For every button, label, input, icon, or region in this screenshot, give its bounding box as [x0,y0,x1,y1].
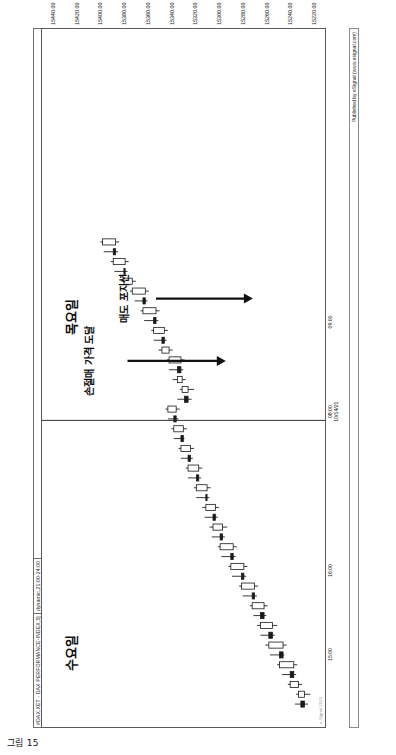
candlestick [239,583,258,589]
price-tick-label: 15360.00 [145,2,151,24]
candlestick [180,386,194,392]
candlestick [151,327,168,333]
candlestick [179,445,194,451]
candlestick [265,642,286,648]
time-tick-label: 08:0010/14/21 [327,401,340,421]
time-tick-label: 16:00 [327,564,333,577]
candlestick [221,553,235,559]
candlestick [270,651,284,657]
time-tick-label: 15:00 [327,648,333,661]
candlestick [209,524,227,530]
candlestick [154,337,167,343]
candlestick [100,238,119,244]
candlestick [104,248,118,254]
candlestick [181,455,193,461]
candlestick [202,504,219,510]
candlestick [212,533,225,539]
candlestick [171,425,186,431]
candlestick [261,632,275,638]
candlestick [196,494,209,500]
candlestick [296,691,310,697]
price-chart-plot[interactable]: 수요일목요일손절매 가격 도달매도 포지션 e-Signal 2021 [41,28,326,728]
rotated-chart-stage: #DAX.XET - DAX PERFORMANCE-INDEX,5] dyna… [33,28,363,728]
stop-loss-annotation-arrow-head [217,355,226,365]
day-label: 수요일 [64,635,79,671]
time-axis: 15:0016:0008:0010/14/2109:00 [327,28,347,728]
candlestick [114,268,127,274]
candlestick [111,258,129,264]
candlestick [257,622,277,628]
candlestick [173,376,186,382]
sell-position-annotation: 매도 포지션 [118,274,130,322]
candlestick [188,474,201,480]
candlestick-svg: 수요일목요일손절매 가격 도달매도 포지션 [42,28,326,727]
sell-position-annotation-arrow-head [244,293,253,303]
candlestick [174,435,185,441]
stop-loss-annotation: 손절매 가격 도달 [83,324,95,395]
candlestick [205,514,218,520]
candlestick [186,465,203,471]
price-tick-label: 15220.00 [311,2,317,24]
price-tick-label: 15260.00 [264,2,270,24]
candlestick [158,347,172,353]
candlestick [169,366,183,372]
candlestick [130,288,149,294]
candlestick [194,484,211,490]
candlestick [166,406,180,412]
price-tick-label: 15380.00 [121,2,127,24]
candlestick [253,612,266,618]
candlestick [218,543,237,549]
price-tick-label: 15340.00 [169,2,175,24]
time-tick-label: 09:00 [327,315,333,328]
candlestick [295,701,308,707]
candlestick [243,592,257,598]
candlestick [250,602,268,608]
candlestick [288,681,302,687]
price-tick-label: 15240.00 [287,2,293,24]
candlestick [228,563,247,569]
candlestick [144,317,158,323]
price-tick-label: 15420.00 [74,2,80,24]
price-tick-label: 15320.00 [192,2,198,24]
price-tick-label: 15400.00 [97,2,103,24]
price-tick-label: 15440.00 [50,2,56,24]
figure-caption: 그림 15 [7,736,39,749]
candlestick [135,297,148,303]
candlestick [282,671,296,677]
publisher-label: Published by eSignal (www.esignal.com) [351,29,357,122]
day-label: 목요일 [64,299,79,335]
candlestick [232,573,246,579]
page-root: #DAX.XET - DAX PERFORMANCE-INDEX,5] dyna… [0,0,396,755]
candlestick [277,661,297,667]
candlestick [177,396,191,402]
chart-corner-note: e-Signal 2021 [318,696,323,723]
candlestick [141,307,160,313]
price-tick-label: 15300.00 [216,2,222,24]
price-tick-label: 15280.00 [240,2,246,24]
publisher-strip: Published by eSignal (www.esignal.com) [349,28,359,728]
